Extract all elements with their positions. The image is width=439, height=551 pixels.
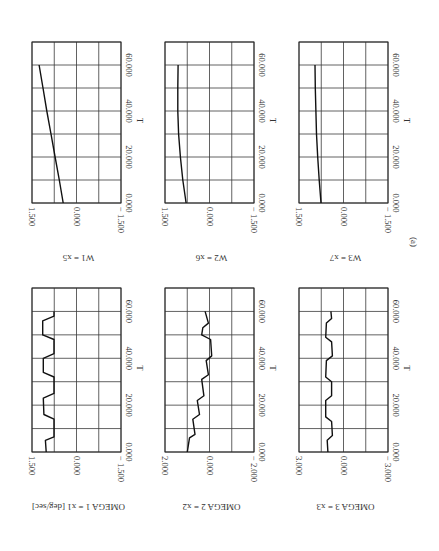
t-axis-label: T bbox=[402, 118, 412, 124]
t-tick-label: 40.000 bbox=[257, 347, 267, 370]
plot-w2: 1.5000.000− 1.5000.00020.00040.00060.000… bbox=[160, 42, 278, 263]
t-tick-label: 60.000 bbox=[257, 300, 267, 323]
t-tick-label: 60.000 bbox=[124, 300, 134, 323]
value-tick-label: 1.500 bbox=[27, 456, 37, 475]
plot-omega1: 1.5000.000− 1.5000.00020.00040.00060.000… bbox=[27, 288, 145, 512]
value-tick-label: 0.000 bbox=[205, 207, 215, 226]
t-tick-label: 0.000 bbox=[124, 193, 134, 212]
t-tick-label: 20.000 bbox=[257, 145, 267, 168]
t-tick-label: 0.000 bbox=[391, 442, 401, 461]
plot-omega2: 2.0000.000− 2.0000.00020.00040.00060.000… bbox=[160, 288, 278, 512]
value-tick-label: 0.000 bbox=[205, 456, 215, 475]
plot-w3: 1.5000.000− 1.5000.00020.00040.00060.000… bbox=[294, 42, 412, 263]
t-tick-label: 60.000 bbox=[257, 53, 267, 76]
t-tick-label: 40.000 bbox=[124, 99, 134, 122]
t-tick-label: 60.000 bbox=[391, 53, 401, 76]
t-tick-label: 0.000 bbox=[124, 442, 134, 461]
plot-w1: 1.5000.000− 1.5000.00020.00040.00060.000… bbox=[27, 42, 145, 263]
t-tick-label: 20.000 bbox=[257, 393, 267, 416]
t-tick-label: 60.000 bbox=[391, 300, 401, 323]
value-axis-label: OMEGA 3 = x3 bbox=[316, 502, 374, 512]
t-axis-label: T bbox=[402, 365, 412, 371]
t-tick-label: 20.000 bbox=[124, 145, 134, 168]
value-tick-label: 0.000 bbox=[339, 207, 349, 226]
t-axis-label: T bbox=[268, 365, 278, 371]
t-axis-label: T bbox=[135, 365, 145, 371]
value-tick-label: 0.000 bbox=[72, 207, 82, 226]
t-tick-label: 40.000 bbox=[124, 347, 134, 370]
value-tick-label: 0.000 bbox=[72, 456, 82, 475]
t-tick-label: 0.000 bbox=[257, 193, 267, 212]
value-tick-label: 3.000 bbox=[294, 456, 304, 475]
value-axis-label: W1 = x5 bbox=[62, 253, 94, 263]
t-tick-label: 20.000 bbox=[124, 393, 134, 416]
value-tick-label: 0.000 bbox=[339, 456, 349, 475]
t-axis-label: T bbox=[268, 118, 278, 124]
value-axis-label: W3 = x7 bbox=[329, 253, 361, 263]
figure-canvas: 1.5000.000− 1.5000.00020.00040.00060.000… bbox=[0, 0, 439, 551]
value-axis-label: W2 = x6 bbox=[195, 253, 227, 263]
value-tick-label: 1.500 bbox=[160, 207, 170, 226]
t-tick-label: 60.000 bbox=[124, 53, 134, 76]
t-tick-label: 40.000 bbox=[257, 99, 267, 122]
value-tick-label: 2.000 bbox=[160, 456, 170, 475]
t-tick-label: 20.000 bbox=[391, 393, 401, 416]
t-tick-label: 40.000 bbox=[391, 347, 401, 370]
t-tick-label: 40.000 bbox=[391, 99, 401, 122]
value-axis-label: OMEGA 1 = x1 [deg/sec] bbox=[32, 502, 125, 512]
t-axis-label: T bbox=[135, 118, 145, 124]
figure-label: (a) bbox=[409, 237, 419, 247]
t-tick-label: 0.000 bbox=[257, 442, 267, 461]
value-tick-label: 1.500 bbox=[294, 207, 304, 226]
t-tick-label: 0.000 bbox=[391, 193, 401, 212]
value-axis-label: OMEGA 2 = x2 bbox=[183, 502, 241, 512]
plot-omega3: 3.0000.000− 3.0000.00020.00040.00060.000… bbox=[294, 288, 412, 512]
value-tick-label: 1.500 bbox=[27, 207, 37, 226]
t-tick-label: 20.000 bbox=[391, 145, 401, 168]
